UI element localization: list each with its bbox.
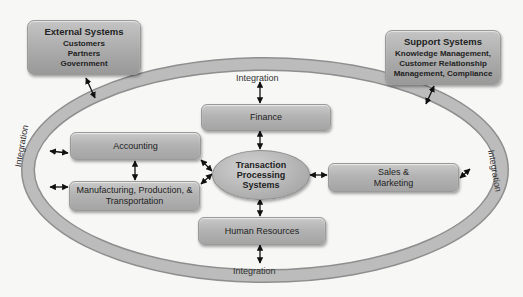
human-resources-label: Human Resources	[225, 226, 300, 237]
integration-label-bottom: Integration	[233, 266, 276, 276]
sales-label-line2: Marketing	[374, 178, 414, 189]
manufacturing-box: Manufacturing, Production, & Transportat…	[69, 181, 200, 211]
support-systems-title: Support Systems	[404, 36, 482, 47]
external-systems-box: External Systems Customers Partners Gove…	[27, 20, 141, 75]
sales-marketing-box: Sales & Marketing	[328, 163, 459, 192]
manufacturing-label-line2: Transportation	[106, 196, 164, 207]
integration-label-top: Integration	[236, 73, 279, 83]
external-item: Partners	[68, 49, 100, 59]
transaction-processing-systems-node: Transaction Processing Systems	[212, 150, 310, 200]
tps-line: Transaction	[236, 160, 287, 170]
tps-line: Processing	[237, 170, 286, 180]
sales-label-line1: Sales &	[378, 167, 409, 178]
external-item: Customers	[63, 39, 105, 49]
support-item: Knowledge Management,	[395, 49, 491, 59]
external-systems-title: External Systems	[44, 26, 123, 37]
finance-label: Finance	[250, 112, 282, 123]
human-resources-box: Human Resources	[198, 217, 326, 245]
tps-line: Systems	[242, 180, 279, 190]
support-item: Management, Compliance	[394, 69, 493, 79]
accounting-box: Accounting	[70, 132, 201, 160]
accounting-label: Accounting	[113, 141, 158, 152]
manufacturing-label-line1: Manufacturing, Production, &	[76, 185, 192, 196]
support-item: Customer Relationship	[399, 59, 487, 69]
support-systems-box: Support Systems Knowledge Management, Cu…	[385, 30, 501, 85]
external-item: Government	[60, 59, 107, 69]
finance-box: Finance	[201, 104, 331, 131]
